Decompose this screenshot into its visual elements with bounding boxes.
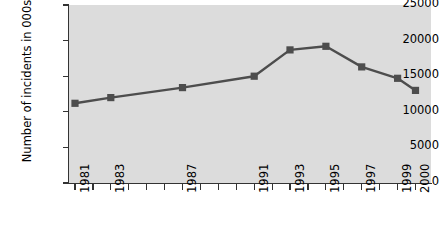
data-point-marker (107, 94, 114, 101)
series-layer (0, 0, 439, 229)
data-point-marker (412, 87, 419, 94)
data-point-marker (179, 84, 186, 91)
series-markers (71, 43, 419, 107)
data-point-marker (71, 100, 78, 107)
data-point-marker (251, 73, 258, 80)
data-point-marker (322, 43, 329, 50)
series-line (75, 46, 416, 103)
data-point-marker (394, 75, 401, 82)
data-point-marker (358, 63, 365, 70)
line-chart: Number of incidents in 000s 050001000015… (0, 0, 439, 229)
data-point-marker (286, 46, 293, 53)
